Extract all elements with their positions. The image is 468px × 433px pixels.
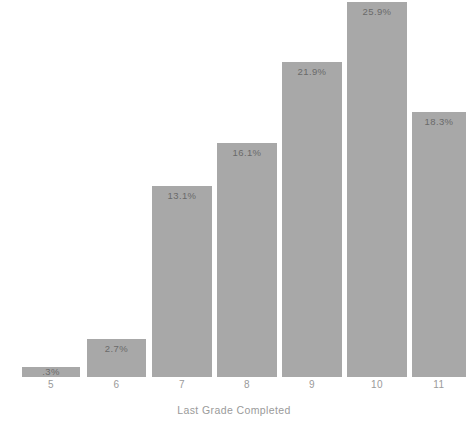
x-tick-label: 11 — [412, 379, 466, 390]
bar[interactable] — [282, 62, 342, 377]
bar-group: .3% — [22, 0, 80, 377]
bar-group: 2.7% — [87, 0, 146, 377]
x-axis-tick-labels: 5 6 7 8 9 10 11 — [0, 379, 468, 399]
bar-chart: .3% 2.7% 13.1% 16.1% 21.9% 25.9% 18.3% — [0, 0, 468, 433]
bar-value-label: 21.9% — [282, 66, 342, 77]
x-axis-title: Last Grade Completed — [0, 404, 468, 416]
bar-value-label: 2.7% — [87, 343, 146, 354]
bar-group: 18.3% — [412, 0, 466, 377]
plot-area: .3% 2.7% 13.1% 16.1% 21.9% 25.9% 18.3% — [0, 0, 468, 377]
bar-value-label: 16.1% — [217, 147, 277, 158]
x-tick-label: 7 — [152, 379, 212, 390]
x-tick-label: 8 — [217, 379, 277, 390]
x-tick-label: 10 — [347, 379, 407, 390]
x-tick-label: 9 — [282, 379, 342, 390]
bar-value-label: 25.9% — [347, 6, 407, 17]
x-tick-label: 5 — [22, 379, 80, 390]
bar-value-label: .3% — [22, 366, 80, 377]
bar-group: 13.1% — [152, 0, 212, 377]
x-tick-label: 6 — [87, 379, 146, 390]
bar-group: 25.9% — [347, 0, 407, 377]
bar-value-label: 13.1% — [152, 190, 212, 201]
bar-value-label: 18.3% — [412, 116, 466, 127]
bar[interactable] — [152, 186, 212, 377]
bar[interactable] — [217, 143, 277, 377]
bar[interactable] — [412, 112, 466, 377]
bar-group: 21.9% — [282, 0, 342, 377]
bar-group: 16.1% — [217, 0, 277, 377]
bar[interactable] — [347, 2, 407, 377]
